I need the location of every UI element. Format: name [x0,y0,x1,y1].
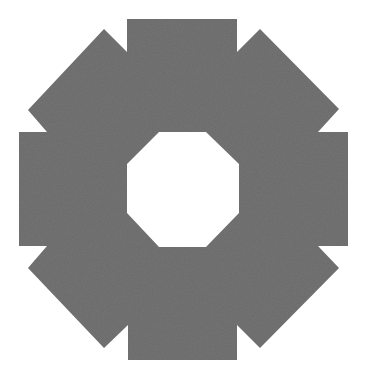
figure-canvas [0,0,367,376]
gear-shape-icon [0,0,367,376]
gear-body [19,19,348,360]
